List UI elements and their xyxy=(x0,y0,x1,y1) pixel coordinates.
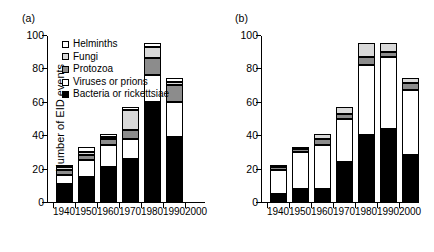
panel-a-xtick-label-1980: 1980 xyxy=(141,207,163,217)
panel-b-tag: (b) xyxy=(235,12,248,24)
panel-b-xtick-label-1980: 1980 xyxy=(355,207,377,217)
legend-label-helminths: Helminths xyxy=(73,38,117,51)
panel-a-ytick-label-60: 60 xyxy=(32,97,44,108)
seg-zoonotic-non-wildlife xyxy=(270,167,287,170)
bar-1980 xyxy=(358,43,375,202)
bar-1940 xyxy=(56,165,73,202)
panel-a-xtick-label-1940: 1940 xyxy=(53,207,75,217)
seg-protozoa xyxy=(122,130,139,138)
seg-zoonotic-wildlife xyxy=(358,65,375,135)
seg-protozoa xyxy=(56,170,73,175)
bar-1960 xyxy=(100,134,117,203)
seg-viruses xyxy=(100,145,117,167)
seg-zoonotic-unspecified xyxy=(358,43,375,56)
seg-zoonotic-non-wildlife xyxy=(380,52,397,57)
bar-1970 xyxy=(336,107,353,202)
seg-non-zoonotic xyxy=(314,189,331,202)
legend-swatch-protozoa-icon xyxy=(62,66,69,73)
panel-a-ytick-label-80: 80 xyxy=(32,63,44,74)
seg-protozoa xyxy=(78,155,95,160)
seg-protozoa xyxy=(100,139,117,146)
seg-zoonotic-wildlife xyxy=(380,57,397,129)
panel-a-y-axis xyxy=(47,36,48,203)
panel-b: (b) 100 80 60 40 20 0 1940 1950 xyxy=(217,0,434,252)
seg-zoonotic-unspecified xyxy=(380,43,397,51)
seg-bacteria xyxy=(56,184,73,202)
legend-label-fungi: Fungi xyxy=(73,51,98,64)
seg-zoonotic-unspecified xyxy=(314,134,331,139)
seg-fungi xyxy=(56,167,73,170)
panel-a-xtick-label-1970: 1970 xyxy=(119,207,141,217)
seg-bacteria xyxy=(78,177,95,202)
seg-zoonotic-unspecified xyxy=(292,147,309,149)
seg-zoonotic-unspecified xyxy=(336,107,353,114)
panel-b-ytick-label-100: 100 xyxy=(240,30,258,41)
seg-zoonotic-wildlife xyxy=(270,170,287,193)
panel-b-ytick-label-0: 0 xyxy=(252,197,258,208)
seg-zoonotic-non-wildlife xyxy=(292,149,309,152)
panel-b-xtick-label-1990: 1990 xyxy=(377,207,399,217)
bar-1990 xyxy=(380,43,397,202)
panel-a-xtick-label-1950: 1950 xyxy=(75,207,97,217)
panel-a-ytick-label-100: 100 xyxy=(26,30,44,41)
seg-zoonotic-non-wildlife xyxy=(402,83,419,90)
panel-a-ytick-label-20: 20 xyxy=(32,163,44,174)
panel-a-ytick-label-0: 0 xyxy=(38,197,44,208)
panel-b-xtick-label-1940: 1940 xyxy=(267,207,289,217)
panel-a-ytick-label-40: 40 xyxy=(32,130,44,141)
seg-bacteria xyxy=(144,102,161,202)
legend-item-helminths: Helminths xyxy=(62,38,169,51)
panel-a-xtick-label-1960: 1960 xyxy=(97,207,119,217)
panel-b-xtick-label-1970: 1970 xyxy=(333,207,355,217)
panel-a: (a) Number of EID events 100 80 60 40 20… xyxy=(0,0,217,252)
legend-swatch-helminths-icon xyxy=(62,41,69,48)
panel-b-ytick-label-80: 80 xyxy=(246,63,258,74)
legend-label-bacteria: Bacteria or rickettsiae xyxy=(73,88,169,101)
legend-swatch-viruses-icon xyxy=(62,79,69,86)
legend-item-viruses: Viruses or prions xyxy=(62,76,169,89)
seg-zoonotic-wildlife xyxy=(336,119,353,162)
bar-1970 xyxy=(122,107,139,202)
seg-non-zoonotic xyxy=(292,189,309,202)
panel-a-xtick-label-1990: 1990 xyxy=(163,207,185,217)
seg-fungi xyxy=(78,152,95,155)
seg-non-zoonotic xyxy=(402,155,419,202)
seg-fungi xyxy=(122,110,139,130)
seg-bacteria xyxy=(100,167,117,202)
bar-1960 xyxy=(314,134,331,203)
panel-b-xtick-label-1960: 1960 xyxy=(311,207,333,217)
seg-helminths xyxy=(56,165,73,167)
seg-viruses xyxy=(122,139,139,159)
panel-a-legend: Helminths Fungi Protozoa Viruses or prio… xyxy=(62,38,169,101)
seg-non-zoonotic xyxy=(358,135,375,202)
panel-b-xtick-label-2000: 2000 xyxy=(399,207,421,217)
seg-viruses xyxy=(166,102,183,137)
seg-viruses xyxy=(78,160,95,177)
eid-events-figure: (a) Number of EID events 100 80 60 40 20… xyxy=(0,0,434,252)
seg-helminths xyxy=(100,134,117,137)
seg-zoonotic-wildlife xyxy=(314,145,331,188)
bar-2000 xyxy=(402,78,419,202)
seg-zoonotic-non-wildlife xyxy=(358,57,375,65)
seg-zoonotic-unspecified xyxy=(270,165,287,167)
panel-b-ytick-label-60: 60 xyxy=(246,97,258,108)
seg-helminths xyxy=(122,107,139,110)
legend-label-viruses: Viruses or prions xyxy=(73,76,148,89)
panel-b-xtick-label-1950: 1950 xyxy=(289,207,311,217)
seg-zoonotic-non-wildlife xyxy=(336,114,353,119)
seg-bacteria xyxy=(166,137,183,202)
seg-non-zoonotic xyxy=(380,129,397,203)
seg-zoonotic-wildlife xyxy=(292,152,309,189)
panel-b-plot-area: 100 80 60 40 20 0 1940 1950 1960 1970 19… xyxy=(261,30,419,203)
panel-b-y-axis xyxy=(261,36,262,203)
panel-b-ytick-label-20: 20 xyxy=(246,163,258,174)
legend-label-protozoa: Protozoa xyxy=(73,63,113,76)
seg-non-zoonotic xyxy=(270,194,287,202)
seg-zoonotic-non-wildlife xyxy=(314,139,331,146)
panel-b-x-axis xyxy=(261,202,419,203)
bar-1950 xyxy=(292,147,309,202)
seg-zoonotic-wildlife xyxy=(402,90,419,155)
seg-zoonotic-unspecified xyxy=(402,78,419,83)
panel-b-ytick-label-40: 40 xyxy=(246,130,258,141)
panel-a-tag: (a) xyxy=(22,12,35,24)
